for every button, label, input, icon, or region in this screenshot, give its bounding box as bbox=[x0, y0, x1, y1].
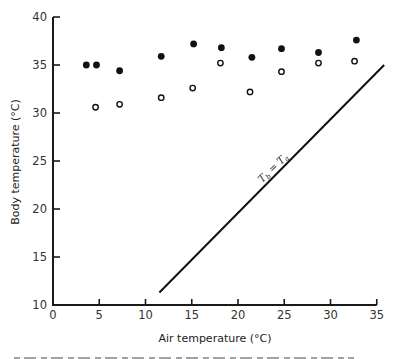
filled-data-point bbox=[248, 54, 255, 61]
filled-circle-series bbox=[83, 37, 360, 75]
scatter-chart: 0510152025303510152025303540 Air tempera… bbox=[0, 0, 397, 359]
x-tick-label: 0 bbox=[49, 308, 56, 322]
x-tick-label: 20 bbox=[231, 308, 246, 322]
filled-data-point bbox=[190, 40, 197, 47]
open-data-point bbox=[352, 58, 357, 63]
svg-text:Tb = Ta: Tb = Ta bbox=[256, 151, 291, 186]
open-data-point bbox=[190, 85, 195, 90]
filled-data-point bbox=[158, 53, 165, 60]
x-tick-label: 30 bbox=[323, 308, 338, 322]
y-tick-label: 15 bbox=[32, 250, 47, 264]
x-tick-label: 25 bbox=[277, 308, 292, 322]
x-axis-label: Air temperature (°C) bbox=[158, 332, 271, 345]
x-tick-label: 10 bbox=[138, 308, 153, 322]
filled-data-point bbox=[315, 49, 322, 56]
filled-data-point bbox=[218, 44, 225, 51]
filled-data-point bbox=[83, 62, 90, 69]
filled-data-point bbox=[93, 62, 100, 69]
x-tick-label: 35 bbox=[369, 308, 384, 322]
line-annotation: Tb = Ta bbox=[256, 151, 291, 186]
filled-data-point bbox=[353, 37, 360, 44]
y-tick-label: 10 bbox=[32, 298, 47, 312]
x-tick-label: 5 bbox=[96, 308, 103, 322]
filled-data-point bbox=[116, 67, 123, 74]
y-axis-label: Body temperature (°C) bbox=[9, 99, 22, 225]
y-tick-label: 35 bbox=[32, 58, 47, 72]
open-data-point bbox=[316, 60, 321, 65]
y-tick-label: 25 bbox=[32, 154, 47, 168]
y-tick-label: 40 bbox=[32, 10, 47, 24]
open-data-point bbox=[159, 95, 164, 100]
y-tick-label: 30 bbox=[32, 106, 47, 120]
y-tick-label: 20 bbox=[32, 202, 47, 216]
open-data-point bbox=[218, 60, 223, 65]
open-data-point bbox=[247, 89, 252, 94]
filled-data-point bbox=[278, 45, 285, 52]
axes bbox=[53, 17, 377, 306]
open-data-point bbox=[93, 105, 98, 110]
open-circle-series bbox=[93, 58, 357, 109]
figure-caption-cropped bbox=[14, 352, 354, 359]
open-data-point bbox=[117, 102, 122, 107]
axis-ticks: 0510152025303510152025303540 bbox=[32, 10, 384, 322]
x-tick-label: 15 bbox=[184, 308, 199, 322]
open-data-point bbox=[279, 69, 284, 74]
